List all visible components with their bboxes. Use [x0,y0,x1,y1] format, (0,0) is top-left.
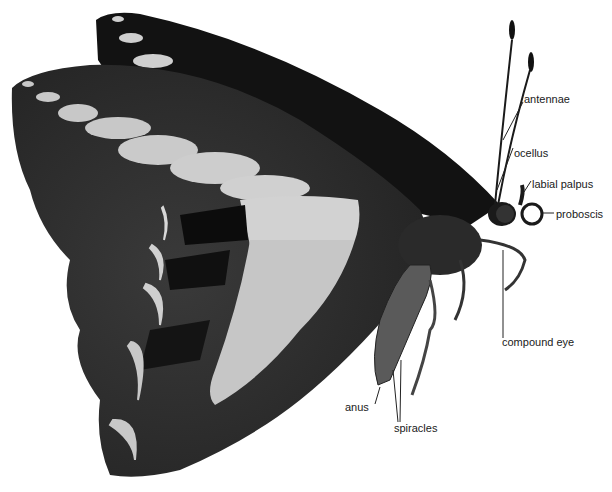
forewing-spot [119,33,143,43]
label-compound-eye: compound eye [502,336,574,348]
forewing-spot [112,16,124,22]
butterfly-illustration [0,0,612,492]
labial-palpus [520,185,523,205]
label-labial-palpus: labial palpus [532,178,593,190]
antenna [498,70,530,205]
label-spiracles: spiracles [394,422,437,434]
label-ocellus: ocellus [514,147,548,159]
label-anus: anus [345,401,369,413]
compound-eye [496,205,514,223]
label-proboscis: proboscis [556,208,603,220]
forewing-spot [133,54,173,68]
proboscis-coil [522,204,542,224]
label-antennae: antennae [524,93,570,105]
